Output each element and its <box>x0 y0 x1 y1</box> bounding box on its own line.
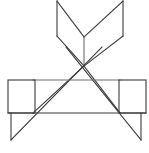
left-square-panel <box>8 80 35 113</box>
left-wing-bottom-diagonal <box>57 36 84 66</box>
geometric-line-figure: Geometric line figure Symmetric black-li… <box>0 0 149 153</box>
central-triangle-group <box>33 66 120 113</box>
right-wing-bottom-diagonal <box>84 36 123 66</box>
upper-wing-group <box>57 1 123 66</box>
side-panels-group <box>8 80 146 113</box>
long-diagonal-up-right <box>11 47 102 140</box>
right-square-panel <box>119 80 146 113</box>
long-diagonal-up-left <box>66 47 141 140</box>
triangle-left-edge <box>33 66 84 113</box>
right-wing-top-diagonal <box>84 1 123 37</box>
base-group <box>8 113 146 140</box>
triangle-right-edge <box>84 66 120 113</box>
long-diagonals-group <box>11 47 141 140</box>
figure-canvas: Geometric line figure Symmetric black-li… <box>0 0 149 153</box>
left-wing-top-diagonal <box>57 1 84 37</box>
